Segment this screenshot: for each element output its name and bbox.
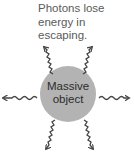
massive-object-label: Massive object bbox=[39, 80, 97, 106]
photon-arrow-lower-left-icon bbox=[46, 120, 55, 149]
photon-arrow-upper-right-icon bbox=[83, 47, 92, 74]
object-label-line-1: Massive bbox=[39, 80, 97, 93]
photon-arrow-lower-right-icon bbox=[84, 120, 93, 149]
object-label-line-2: object bbox=[39, 93, 97, 106]
photon-arrow-upper-left-icon bbox=[44, 47, 53, 74]
photon-arrow-right-icon bbox=[99, 97, 129, 100]
photon-arrow-left-icon bbox=[3, 97, 37, 100]
